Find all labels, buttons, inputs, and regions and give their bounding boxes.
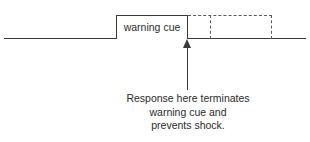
response-arrow-stem bbox=[187, 45, 188, 90]
caption-line-2: warning cue and bbox=[74, 106, 302, 120]
caption-line-1: Response here terminates bbox=[74, 92, 302, 106]
dashed-continuation-box bbox=[188, 15, 272, 39]
caption: Response here terminates warning cue and… bbox=[74, 92, 302, 133]
warning-cue-label: warning cue bbox=[116, 17, 188, 37]
response-arrow-head-icon bbox=[183, 39, 191, 48]
caption-line-3: prevents shock. bbox=[74, 119, 302, 133]
avoidance-paradigm-diagram: warning cue Response here terminates war… bbox=[0, 0, 310, 142]
clipped-heading-above bbox=[4, 0, 204, 2]
dashed-divider-line bbox=[210, 15, 211, 39]
